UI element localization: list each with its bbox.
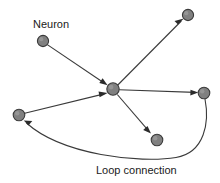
edge-line <box>25 94 105 113</box>
node-left[interactable] <box>13 109 25 121</box>
node-top-right[interactable] <box>182 9 193 20</box>
neuron-node-highlight <box>109 85 114 90</box>
neuron-node-highlight <box>153 136 157 140</box>
edge-hub-to-right <box>119 90 198 96</box>
neuron-node-icon[interactable] <box>182 9 193 20</box>
loop-connection-label: Loop connection <box>96 164 177 177</box>
arrow-head-icon <box>190 90 198 96</box>
edge-left-to-hub <box>25 92 108 114</box>
edge-hub-to-bottom <box>117 95 151 134</box>
diagram-canvas: Neuron Loop connection <box>0 0 220 183</box>
edge-hub-to-top-right <box>118 19 184 86</box>
arrow-head-icon <box>99 92 108 98</box>
loop-connection-path <box>27 99 207 159</box>
node-top-left-neuron[interactable] <box>37 35 48 46</box>
neuron-label: Neuron <box>33 18 69 31</box>
node-hub[interactable] <box>107 83 119 95</box>
neuron-node-icon[interactable] <box>198 87 210 99</box>
edge-loop-connection <box>24 99 207 159</box>
edge-line <box>118 21 182 85</box>
node-right[interactable] <box>198 87 210 99</box>
neuron-node-icon[interactable] <box>13 109 25 121</box>
edge-line <box>117 95 148 131</box>
edge-line <box>119 90 195 93</box>
neuron-node-icon[interactable] <box>151 134 163 146</box>
neuron-node-highlight <box>200 89 204 93</box>
neuron-node-icon[interactable] <box>107 83 119 95</box>
node-bottom[interactable] <box>151 134 163 146</box>
neuron-node-highlight <box>184 11 188 15</box>
arrow-head-icon <box>24 121 33 126</box>
arrow-head-icon <box>99 78 107 85</box>
neuron-node-highlight <box>39 37 43 41</box>
neuron-node-icon[interactable] <box>37 35 48 46</box>
neuron-node-highlight <box>15 111 19 115</box>
edge-neuron-to-hub <box>47 45 107 86</box>
edge-line <box>47 45 104 84</box>
arrow-head-icon <box>143 126 151 134</box>
